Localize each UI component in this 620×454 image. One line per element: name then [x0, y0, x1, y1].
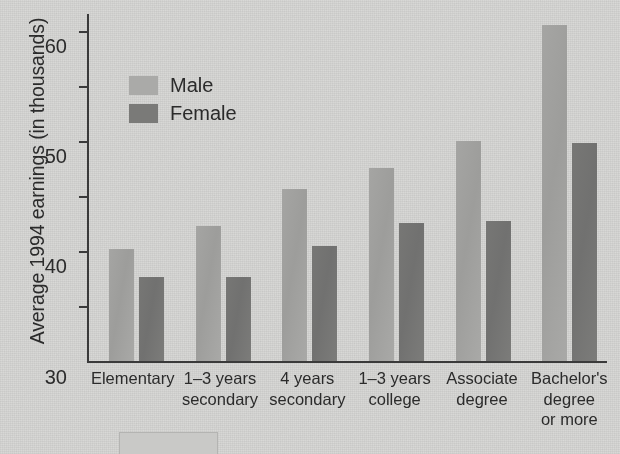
x-axis-label-1: 1–3 years secondary — [176, 368, 263, 430]
bar-female-4 — [486, 221, 511, 361]
y-tick-mark: 20 — [79, 251, 87, 253]
y-tick-mark: 50 — [79, 86, 87, 88]
y-tick-label: 50 — [45, 145, 67, 168]
y-tick-mark: 10 — [79, 306, 87, 308]
chart-page: Average 1994 earnings (in thousands) 102… — [0, 0, 620, 454]
bar-female-3 — [399, 223, 424, 361]
bar-male-0 — [109, 249, 134, 361]
bar-male-3 — [369, 168, 394, 361]
bar-female-2 — [312, 246, 337, 361]
legend-item-female: Female — [129, 99, 299, 127]
legend-swatch-male-icon — [129, 76, 158, 95]
bar-male-2 — [282, 189, 307, 361]
bar-male-5 — [542, 25, 567, 361]
x-axis-category-labels: Elementary1–3 years secondary4 years sec… — [89, 368, 613, 430]
y-tick-mark: 40 — [79, 141, 87, 143]
y-tick-label: 60 — [45, 35, 67, 58]
y-tick-mark: 60 — [79, 31, 87, 33]
bar-female-0 — [139, 277, 164, 361]
legend-label-male: Male — [170, 75, 213, 95]
y-tick-label: 30 — [45, 366, 67, 389]
chart-legend: Male Female — [129, 71, 299, 127]
y-tick-label: 40 — [45, 255, 67, 278]
bar-female-5 — [572, 143, 597, 361]
x-axis-label-5: Bachelor's degree or more — [526, 368, 613, 430]
x-axis-label-3: 1–3 years college — [351, 368, 438, 430]
x-axis-label-2: 4 years secondary — [264, 368, 351, 430]
bar-male-1 — [196, 226, 221, 361]
bar-female-1 — [226, 277, 251, 361]
legend-swatch-female-icon — [129, 104, 158, 123]
y-tick-mark: 30 — [79, 196, 87, 198]
bar-male-4 — [456, 141, 481, 361]
x-axis-label-4: Associate degree — [438, 368, 525, 430]
x-axis-label-0: Elementary — [89, 368, 176, 430]
plot-area: 102030405060 Male Female — [87, 14, 607, 363]
legend-label-female: Female — [170, 103, 237, 123]
bottom-cropped-box — [119, 432, 218, 454]
legend-item-male: Male — [129, 71, 299, 99]
x-axis-line — [87, 361, 607, 363]
y-axis-line — [87, 14, 89, 363]
